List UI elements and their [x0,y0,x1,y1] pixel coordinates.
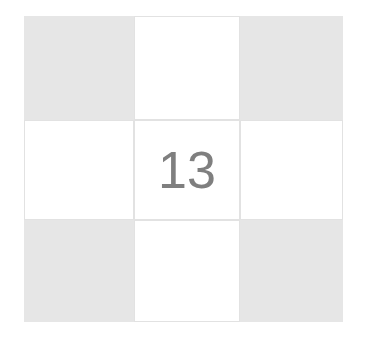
cell-r1c0[interactable] [24,120,134,220]
cell-r2c1[interactable] [134,220,240,322]
cell-r0c2[interactable] [240,16,343,120]
cell-r2c2[interactable] [240,220,343,322]
cell-r0c0[interactable] [24,16,134,120]
cell-r0c1[interactable] [134,16,240,120]
puzzle-grid: 13 [24,16,343,322]
cell-r1c2[interactable] [240,120,343,220]
cell-r2c0[interactable] [24,220,134,322]
center-number: 13 [158,144,216,196]
cell-r1c1-center[interactable]: 13 [134,120,240,220]
